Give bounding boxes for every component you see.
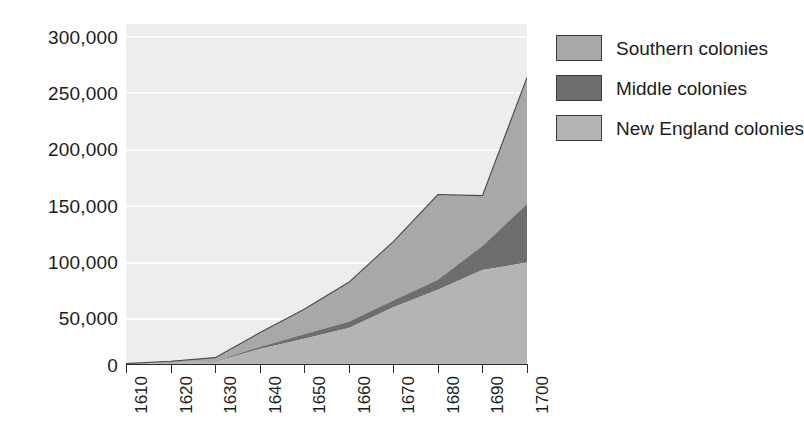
x-tick-1670 <box>393 364 394 373</box>
legend-label-southern: Southern colonies <box>616 39 768 58</box>
x-tick-label-1620: 1620 <box>178 376 195 414</box>
x-tick-1660 <box>349 364 350 373</box>
plot-area <box>126 24 527 364</box>
x-tick-1630 <box>215 364 216 373</box>
x-tick-1640 <box>260 364 261 373</box>
x-tick-1610 <box>126 364 127 373</box>
y-axis: 300,000 250,000 200,000 150,000 100,000 … <box>0 0 118 431</box>
x-tick-1690 <box>482 364 483 373</box>
x-tick-1700 <box>527 364 528 373</box>
legend-label-middle: Middle colonies <box>616 79 747 98</box>
x-tick-1620 <box>171 364 172 373</box>
x-tick-label-1610: 1610 <box>133 376 150 414</box>
y-tick-label-0: 0 <box>0 356 118 375</box>
x-tick-label-1700: 1700 <box>534 376 551 414</box>
legend-label-new-england: New England colonies <box>616 119 804 138</box>
y-tick-label-300000: 300,000 <box>0 28 118 47</box>
chart-legend: Southern colonies Middle colonies New En… <box>556 28 802 148</box>
legend-swatch-new-england <box>556 115 602 141</box>
y-tick-label-200000: 200,000 <box>0 140 118 159</box>
x-tick-label-1680: 1680 <box>445 376 462 414</box>
x-tick-1650 <box>304 364 305 373</box>
legend-swatch-middle <box>556 75 602 101</box>
x-axis-line <box>126 364 527 365</box>
x-tick-label-1660: 1660 <box>356 376 373 414</box>
x-tick-label-1650: 1650 <box>311 376 328 414</box>
legend-item-middle: Middle colonies <box>556 68 802 108</box>
x-tick-label-1690: 1690 <box>489 376 506 414</box>
series-layer <box>126 24 527 364</box>
legend-item-new-england: New England colonies <box>556 108 802 148</box>
x-tick-label-1630: 1630 <box>222 376 239 414</box>
y-tick-label-100000: 100,000 <box>0 253 118 272</box>
legend-item-southern: Southern colonies <box>556 28 802 68</box>
y-tick-label-250000: 250,000 <box>0 84 118 103</box>
x-tick-label-1670: 1670 <box>400 376 417 414</box>
y-tick-label-150000: 150,000 <box>0 197 118 216</box>
x-tick-1680 <box>438 364 439 373</box>
x-tick-label-1640: 1640 <box>267 376 284 414</box>
y-tick-label-50000: 50,000 <box>0 309 118 328</box>
legend-swatch-southern <box>556 35 602 61</box>
